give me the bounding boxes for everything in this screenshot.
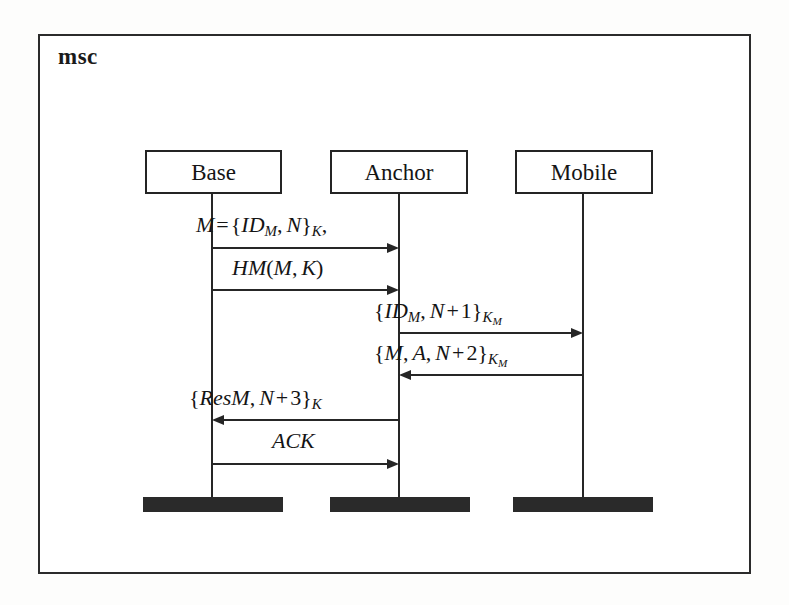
token-three: 3	[290, 385, 301, 410]
token-lbrace3: {	[374, 298, 385, 323]
msc-frame-label: msc	[58, 44, 98, 70]
terminator-mobile	[513, 497, 653, 512]
token-plus4: +	[450, 340, 466, 365]
message-arrow-4-line	[411, 374, 583, 376]
token-plus3: +	[444, 298, 460, 323]
instance-label-base: Base	[191, 161, 236, 184]
token-ID: ID	[241, 212, 264, 237]
token-sub-K4-M: M	[498, 357, 507, 369]
figure-canvas: msc Base Anchor Mobile M={IDM,N}K, HM(M,…	[0, 0, 789, 605]
token-lbrace4: {	[374, 340, 385, 365]
token-sub-M3: M	[408, 309, 420, 325]
message-arrow-2-line	[212, 289, 387, 291]
instance-head-mobile[interactable]: Mobile	[515, 150, 653, 194]
message-label-2: HM(M,K)	[232, 257, 323, 279]
message-label-6: ACK	[272, 430, 315, 452]
message-arrow-3-head	[571, 328, 583, 338]
token-M: M	[196, 212, 214, 237]
message-arrow-2-head	[387, 285, 399, 295]
message-label-3: {IDM,N+1}KM	[374, 300, 502, 322]
lifeline-base	[211, 194, 213, 497]
lifeline-mobile	[582, 194, 584, 497]
message-arrow-3-line	[399, 332, 571, 334]
token-one: 1	[461, 298, 472, 323]
token-M4: M	[385, 340, 403, 365]
message-label-5: {ResM,N+3}K	[189, 387, 322, 409]
token-comma: ,	[277, 212, 283, 237]
token-N5: N	[255, 385, 274, 410]
token-N4: N	[431, 340, 450, 365]
terminator-anchor	[330, 497, 470, 512]
terminator-base	[143, 497, 283, 512]
token-plus5: +	[274, 385, 290, 410]
instance-label-anchor: Anchor	[365, 161, 434, 184]
token-M2: M	[274, 255, 292, 280]
token-sub-K3: KM	[482, 309, 501, 325]
token-N3: N	[426, 298, 445, 323]
token-trailing-comma: ,	[322, 212, 328, 237]
token-lbrace: {	[231, 212, 242, 237]
message-label-1: M={IDM,N}K,	[196, 214, 327, 236]
token-ACK: ACK	[272, 428, 315, 453]
token-rbrace3: }	[472, 298, 483, 323]
token-ID3: ID	[385, 298, 408, 323]
token-rparen: )	[316, 255, 323, 280]
message-arrow-5-line	[224, 419, 399, 421]
token-lparen: (	[266, 255, 273, 280]
instance-head-anchor[interactable]: Anchor	[330, 150, 468, 194]
token-ResM: ResM	[200, 385, 250, 410]
token-eq: =	[214, 212, 230, 237]
message-label-4: {M,A,N+2}KM	[374, 342, 507, 364]
token-A4: A	[408, 340, 425, 365]
token-sub-K: K	[312, 223, 322, 239]
instance-head-base[interactable]: Base	[145, 150, 282, 194]
token-sub-K5: K	[312, 396, 322, 412]
token-K2: K	[297, 255, 316, 280]
instance-label-mobile: Mobile	[551, 161, 617, 184]
message-arrow-4-head	[399, 370, 411, 380]
token-rbrace5: }	[301, 385, 312, 410]
message-arrow-5-head	[212, 415, 224, 425]
token-sub-K3-M: M	[492, 315, 501, 327]
token-rbrace: }	[301, 212, 312, 237]
message-arrow-1-line	[212, 247, 387, 249]
message-arrow-6-line	[212, 463, 387, 465]
token-sub-M: M	[265, 223, 277, 239]
token-rbrace4: }	[477, 340, 488, 365]
token-sub-K4: KM	[488, 351, 507, 367]
token-HM: HM	[232, 255, 266, 280]
token-two: 2	[466, 340, 477, 365]
message-arrow-1-head	[387, 243, 399, 253]
token-N: N	[283, 212, 302, 237]
message-arrow-6-head	[387, 459, 399, 469]
token-comma3: ,	[420, 298, 426, 323]
token-lbrace5: {	[189, 385, 200, 410]
